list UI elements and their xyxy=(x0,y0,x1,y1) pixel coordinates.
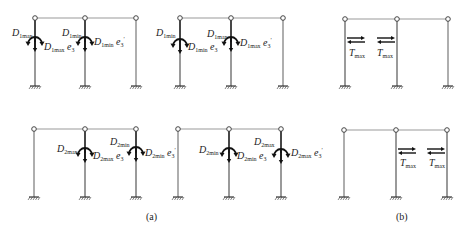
moment-icon xyxy=(171,39,190,54)
moment-label: D1max e3 xyxy=(43,41,75,53)
moment-label: D1max e3′ xyxy=(239,37,273,49)
load-label: D2max xyxy=(56,143,78,155)
shear-label: Tmax xyxy=(349,47,365,59)
shear-label: Tmax xyxy=(429,157,445,169)
frame-b-bottom: Tmax Tmax xyxy=(338,128,453,200)
load-label: D1max xyxy=(206,28,228,40)
caption-b: (b) xyxy=(396,211,408,223)
moment-icon xyxy=(26,37,45,52)
frame-a-top-right: D1min D1min e3 D1max D1max e3′ xyxy=(155,16,289,89)
moment-label: D2max e3 xyxy=(92,150,124,162)
moment-icon xyxy=(220,148,239,163)
moment-icon xyxy=(127,147,146,162)
frame-b-top: Tmax Tmax xyxy=(339,17,454,89)
load-label: D2min xyxy=(198,144,219,156)
load-label: D2min xyxy=(109,136,130,148)
moment-label: D1min e3′ xyxy=(93,36,126,48)
frame-diagram: D1max D1max e3 D1min D1min e3′ D1min D1m… xyxy=(0,0,461,233)
load-label: D1min xyxy=(61,27,82,39)
frame-a-bottom-left: D2max D2max e3 D2min D2min e3′ xyxy=(28,127,177,200)
moment-label: D2min e3′ xyxy=(144,147,177,159)
moment-icon xyxy=(272,149,291,164)
moment-label: D2max e3′ xyxy=(290,147,324,159)
shear-arrows-icon xyxy=(398,147,416,155)
load-label: D1max xyxy=(11,27,33,39)
shear-label: Tmax xyxy=(377,47,393,59)
caption-a: (a) xyxy=(146,211,157,223)
load-label: D2max xyxy=(253,136,275,148)
shear-arrows-icon xyxy=(377,36,395,44)
shear-label: Tmax xyxy=(400,157,416,169)
moment-label: D2min e3 xyxy=(236,150,267,162)
moment-icon xyxy=(76,37,95,52)
frame-a-top-left: D1max D1max e3 D1min D1min e3′ xyxy=(11,16,142,89)
load-label: D1min xyxy=(155,27,176,39)
shear-arrows-icon xyxy=(347,36,365,44)
shear-arrows-icon xyxy=(427,147,445,155)
moment-icon xyxy=(76,148,95,163)
moment-label: D1min e3 xyxy=(187,41,218,53)
frame-a-bottom-right: D2min D2min e3 D2max D2max e3′ xyxy=(172,127,324,200)
